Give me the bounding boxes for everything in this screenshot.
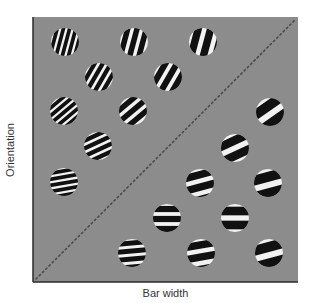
plot-area (0, 0, 314, 303)
x-axis-label: Bar width (33, 287, 298, 299)
y-axis-label-text: Orientation (4, 123, 16, 177)
grating-orientation-figure: Orientation Bar width (0, 0, 314, 303)
